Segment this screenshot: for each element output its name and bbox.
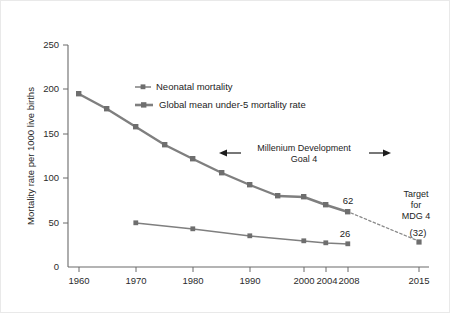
- y-tick-label-200: 200: [43, 83, 59, 94]
- mdg-target-callout: Target for MDG 4: [402, 189, 431, 221]
- series-neonatal-marker: [301, 238, 306, 243]
- y-axis-title: Mortality rate per 1000 live births: [25, 87, 36, 225]
- target-callout-line2: for: [411, 200, 422, 210]
- legend-label-neonatal: Neonatal mortality: [156, 81, 233, 92]
- chart-figure: 250 200 150 100 50 0 Mortality rate per …: [0, 0, 450, 313]
- y-tick-label-150: 150: [43, 128, 59, 139]
- y-tick-label-50: 50: [48, 217, 59, 228]
- y-tick-label-0: 0: [54, 261, 59, 272]
- x-tick-label-2000: 2000: [293, 275, 314, 286]
- series-under5-marker: [301, 194, 306, 199]
- y-tick-label-250: 250: [43, 39, 59, 50]
- legend-entry-neonatal[interactable]: Neonatal mortality: [135, 81, 233, 92]
- series-under5-marker: [247, 182, 252, 187]
- series-under5-marker: [76, 91, 81, 96]
- mdg-target-marker: [416, 239, 421, 244]
- series-under5-marker: [162, 142, 167, 147]
- series-under5-marker: [104, 106, 109, 111]
- series-neonatal-marker: [345, 241, 350, 246]
- series-under5-marker: [323, 202, 328, 207]
- legend-entry-under5[interactable]: Global mean under-5 mortality rate: [135, 99, 306, 110]
- series-under5-marker: [275, 193, 280, 198]
- legend-label-under5: Global mean under-5 mortality rate: [159, 99, 306, 110]
- target-callout-line3: MDG 4: [402, 211, 431, 221]
- mdg-arrow-right-head-icon: [383, 150, 391, 157]
- x-tick-label-1980: 1980: [182, 275, 203, 286]
- mdg-span-annotation: Millenium Development Goal 4: [219, 143, 391, 164]
- series-under5-marker: [133, 124, 138, 129]
- data-label-mdg-target: (32): [410, 227, 427, 238]
- x-axis: 1960 1970 1980 1990 2000 2004 2008 2015: [68, 267, 430, 286]
- series-neonatal-marker: [323, 240, 328, 245]
- series-neonatal-line: [136, 223, 348, 244]
- series-neonatal-marker: [247, 233, 252, 238]
- x-tick-label-1970: 1970: [125, 275, 146, 286]
- x-tick-label-2008: 2008: [338, 275, 359, 286]
- data-label-neonatal-2008: 26: [340, 228, 351, 239]
- legend-swatch-marker-neonatal: [141, 84, 146, 89]
- y-axis: 250 200 150 100 50 0 Mortality rate per …: [25, 39, 68, 272]
- data-label-under5-2008: 62: [343, 195, 354, 206]
- series-neonatal-mortality: [133, 220, 350, 246]
- y-tick-label-100: 100: [43, 172, 59, 183]
- x-tick-label-2015: 2015: [408, 275, 429, 286]
- mdg-annotation-line2: Goal 4: [291, 154, 318, 164]
- series-under5-line: [79, 94, 348, 212]
- series-neonatal-marker: [190, 226, 195, 231]
- series-neonatal-marker: [133, 220, 138, 225]
- x-tick-label-1960: 1960: [68, 275, 89, 286]
- series-under5-marker: [190, 156, 195, 161]
- target-callout-line1: Target: [403, 189, 429, 199]
- x-tick-label-2004: 2004: [316, 275, 337, 286]
- mdg-annotation-line1: Millenium Development: [257, 143, 351, 153]
- legend-swatch-marker-under5: [141, 102, 146, 107]
- series-under5-marker: [345, 209, 350, 214]
- chart-legend: Neonatal mortality Global mean under-5 m…: [135, 81, 306, 110]
- series-under5-marker: [219, 170, 224, 175]
- x-tick-label-1990: 1990: [239, 275, 260, 286]
- mortality-line-chart: 250 200 150 100 50 0 Mortality rate per …: [1, 1, 450, 313]
- mdg-arrow-left-head-icon: [219, 150, 227, 157]
